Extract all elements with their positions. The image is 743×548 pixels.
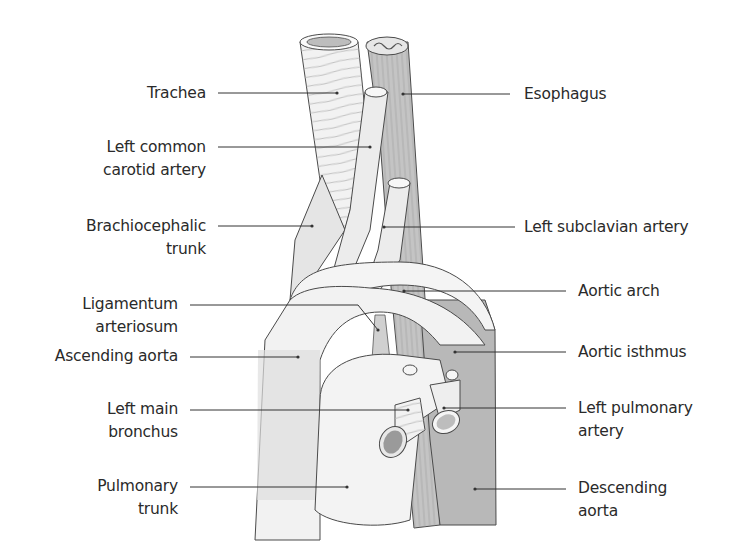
label-line: Aortic isthmus [578,341,687,364]
label-line: Descending [578,477,667,500]
label-line: Left pulmonary [578,397,693,420]
label-line: Brachiocephalic [86,215,206,238]
label-line: Left subclavian artery [524,216,689,239]
label-line: trunk [86,238,206,261]
label-line: Aortic arch [578,280,660,303]
label-line: Ligamentum [82,293,178,316]
ligamentum-arteriosum-shape [372,315,390,360]
label-line: Esophagus [524,83,606,106]
label-descending-aorta: Descending aorta [578,477,667,523]
label-left-pulmonary-artery: Left pulmonary artery [578,397,693,443]
label-ligamentum-arteriosum: Ligamentum arteriosum [82,293,178,339]
label-line: carotid artery [103,159,206,182]
label-brachiocephalic-trunk: Brachiocephalic trunk [86,215,206,261]
label-line: Trachea [147,82,206,105]
label-ascending-aorta: Ascending aorta [55,345,178,368]
label-line: bronchus [107,421,178,444]
label-esophagus: Esophagus [524,83,606,106]
label-line: trunk [97,498,178,521]
label-pulmonary-trunk: Pulmonary trunk [97,475,178,521]
label-line: Left common [103,136,206,159]
label-aortic-isthmus: Aortic isthmus [578,341,687,364]
label-trachea: Trachea [147,82,206,105]
label-line: aorta [578,500,667,523]
label-left-subclavian-artery: Left subclavian artery [524,216,689,239]
label-left-main-bronchus: Left main bronchus [107,398,178,444]
anatomy-illustration [0,0,743,548]
label-aortic-arch: Aortic arch [578,280,660,303]
label-line: Ascending aorta [55,345,178,368]
label-line: Pulmonary [97,475,178,498]
label-line: Left main [107,398,178,421]
label-line: artery [578,420,693,443]
label-line: arteriosum [82,316,178,339]
label-left-common-carotid-artery: Left common carotid artery [103,136,206,182]
